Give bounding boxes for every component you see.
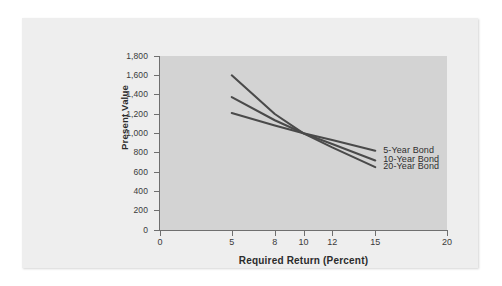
x-axis-tick-label: 15 bbox=[360, 238, 390, 247]
y-axis-tick bbox=[154, 133, 160, 134]
x-axis-tick-label: 12 bbox=[317, 238, 347, 247]
y-axis-tick bbox=[154, 210, 160, 211]
x-axis-tick bbox=[332, 231, 333, 236]
y-axis-tick-label: 0 bbox=[106, 226, 148, 235]
x-axis-tick-label: 5 bbox=[217, 238, 247, 247]
y-axis-tick bbox=[154, 56, 160, 57]
x-axis-tick bbox=[447, 231, 448, 236]
y-axis-line bbox=[159, 56, 160, 231]
x-axis-tick-label: 20 bbox=[432, 238, 462, 247]
figure-card: 02004006008001,0001,2001,4001,6001,800 0… bbox=[22, 18, 478, 268]
x-axis-tick-label: 0 bbox=[145, 238, 175, 247]
x-axis-tick bbox=[375, 231, 376, 236]
x-axis-tick-label: 10 bbox=[289, 238, 319, 247]
y-axis-tick bbox=[154, 75, 160, 76]
x-axis-tick bbox=[275, 231, 276, 236]
y-axis-tick bbox=[154, 94, 160, 95]
x-axis-tick bbox=[232, 231, 233, 236]
x-axis-title: Required Return (Percent) bbox=[160, 255, 447, 266]
y-axis-tick bbox=[154, 191, 160, 192]
y-axis-tick-label: 200 bbox=[106, 206, 148, 215]
y-axis-title: Present Value bbox=[119, 78, 130, 158]
y-axis-tick-label: 600 bbox=[106, 168, 148, 177]
y-axis-tick-label: 400 bbox=[106, 187, 148, 196]
series-legend-label: 20-Year Bond bbox=[383, 162, 439, 171]
y-axis-tick bbox=[154, 114, 160, 115]
y-axis-tick-label: 1,800 bbox=[106, 52, 148, 61]
series-legend-label: 5-Year Bond bbox=[383, 146, 434, 155]
y-axis-tick bbox=[154, 152, 160, 153]
y-axis-tick bbox=[154, 172, 160, 173]
x-axis-tick bbox=[160, 231, 161, 236]
plot-area bbox=[160, 56, 447, 230]
x-axis-tick bbox=[304, 231, 305, 236]
x-axis-tick-label: 8 bbox=[260, 238, 290, 247]
